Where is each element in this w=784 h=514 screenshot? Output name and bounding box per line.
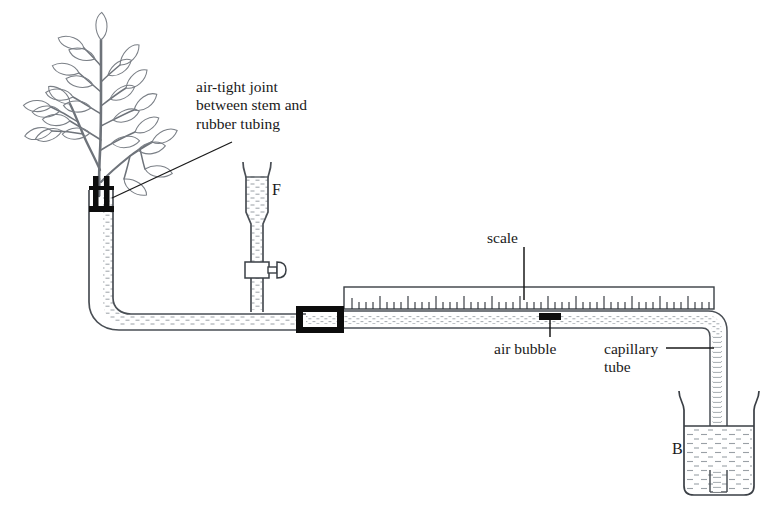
label-air-tight-joint: air-tight joint between stem and rubber … (196, 78, 307, 133)
label-beaker-b: B (672, 440, 683, 459)
graduated-scale (344, 287, 714, 309)
stopcock-tap[interactable] (245, 262, 286, 278)
joint-leader-line (112, 142, 232, 198)
air-bubble-marker (539, 313, 561, 337)
capillary-tube (306, 311, 727, 474)
leafy-shoot (23, 12, 180, 202)
label-reservoir-f: F (272, 181, 281, 200)
label-air-bubble: air bubble (494, 340, 556, 358)
label-capillary-tube: capillary tube (604, 340, 658, 377)
water-filled-tube (89, 178, 306, 330)
potometer-diagram: air-tight joint between stem and rubber … (0, 0, 784, 514)
label-scale: scale (487, 229, 518, 247)
diagram-canvas (0, 0, 784, 514)
